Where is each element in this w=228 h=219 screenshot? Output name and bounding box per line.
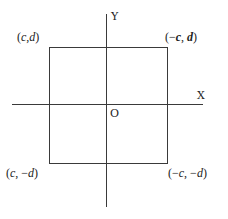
separator: , − xyxy=(15,166,28,180)
x-axis-label: X xyxy=(197,90,205,101)
paren: ) xyxy=(193,30,197,44)
origin-label: O xyxy=(110,108,119,119)
square xyxy=(49,47,168,164)
y-axis xyxy=(106,14,107,207)
corner-label-bottom-right: (−c, −d) xyxy=(168,167,207,179)
separator: , − xyxy=(184,166,197,180)
paren: (− xyxy=(168,166,179,180)
y-axis-label: Y xyxy=(111,11,118,22)
paren: (− xyxy=(165,30,176,44)
paren: ) xyxy=(203,166,207,180)
corner-label-bottom-left: (c, −d) xyxy=(6,167,38,179)
paren: ) xyxy=(35,30,39,44)
paren: ) xyxy=(34,166,38,180)
corner-label-top-left: (c,d) xyxy=(17,31,39,43)
corner-label-top-right: (−c, d) xyxy=(165,31,197,43)
x-axis xyxy=(12,104,203,105)
